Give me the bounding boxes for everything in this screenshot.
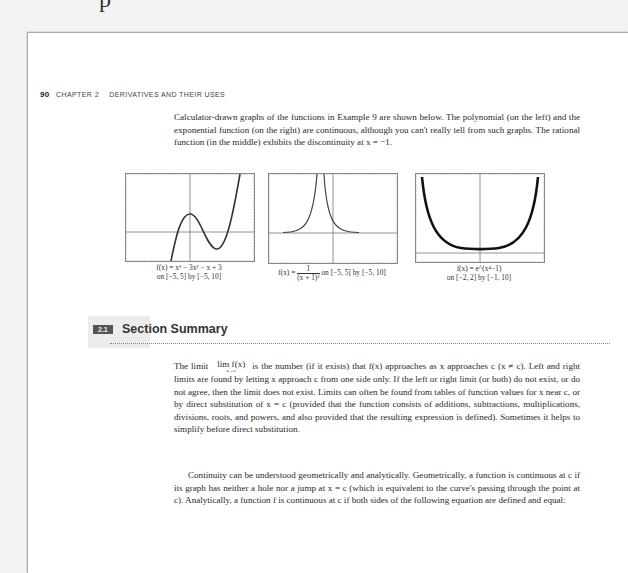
fraction-denominator: (x + 1)² (297, 273, 319, 282)
graph-polynomial (125, 173, 255, 262)
intro-paragraph: Calculator-drawn graphs of the functions… (174, 111, 580, 149)
section-title: Section Summary (122, 322, 228, 336)
polynomial-plot-icon (126, 174, 254, 261)
caption-rational-prefix: f(x) = (278, 268, 297, 277)
summary-limit-intro: The limit (174, 361, 208, 371)
chapter-title: DERIVATIVES AND THEIR USES (109, 91, 225, 98)
section-summary-header: 2.1 Section Summary (88, 322, 608, 342)
caption-exponential: f(x) = e^(x⁴−1) on [−2, 2] by [−1, 10] (415, 264, 543, 282)
cut-off-heading-fragment: p (99, 0, 111, 13)
summary-paragraph-limits: The limit lim f(x)x→c is the number (if … (174, 360, 580, 436)
running-head: 90 CHAPTER 2 DERIVATIVES AND THEIR USES (40, 90, 225, 99)
graph-rational (268, 173, 398, 264)
fraction-numerator: 1 (297, 265, 319, 273)
rational-plot-icon (269, 174, 397, 263)
chapter-label: CHAPTER 2 (56, 91, 99, 98)
graph-exponential (415, 173, 545, 263)
summary-paragraph-continuity: Continuity can be understood geometrical… (174, 469, 580, 507)
section-rule (110, 343, 610, 344)
caption-rational-window: on [−5, 5] by [−5, 10] (320, 268, 386, 277)
caption-polynomial-formula: f(x) = x³ − 3x² − x + 3 (125, 263, 253, 272)
exponential-plot-icon (416, 174, 544, 262)
caption-polynomial-window: on [−5, 5] by [−5, 10] (125, 272, 253, 281)
caption-rational: f(x) = 1(x + 1)² on [−5, 5] by [−5, 10] (262, 265, 402, 282)
caption-polynomial: f(x) = x³ − 3x² − x + 3 on [−5, 5] by [−… (125, 263, 253, 281)
caption-exponential-formula: f(x) = e^(x⁴−1) (415, 264, 543, 273)
limit-expression: lim f(x)x→c (217, 360, 245, 373)
section-number-badge: 2.1 (93, 325, 113, 334)
caption-exponential-window: on [−2, 2] by [−1, 10] (415, 273, 543, 282)
page-number: 90 (40, 90, 50, 99)
caption-rational-fraction: 1(x + 1)² (297, 265, 319, 282)
